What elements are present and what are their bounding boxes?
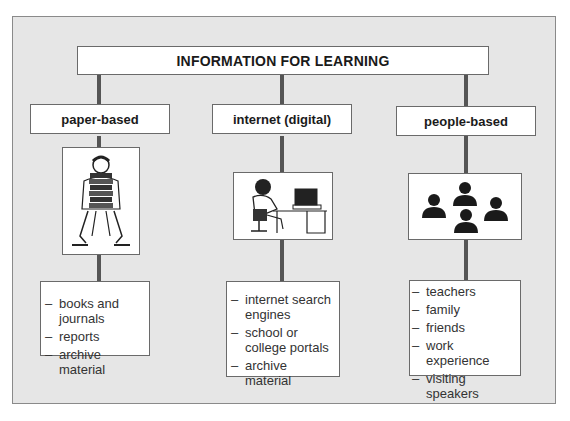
internet-list: internet search engines school or colleg… [226,281,340,377]
connector-internet-top [280,75,284,106]
connector-internet-bottom [280,240,284,282]
internet-picture [233,172,333,240]
category-internet: internet (digital) [212,104,352,134]
connector-internet-mid [280,136,284,172]
list-item: internet search engines [229,292,335,322]
category-people-based: people-based [396,106,536,136]
connector-people-top [464,75,468,106]
connector-people-mid [464,136,468,173]
diagram-title: INFORMATION FOR LEARNING [77,46,489,75]
list-item: archive material [43,347,145,377]
connector-paper-bottom [97,255,101,281]
list-item: family [410,302,518,317]
category-paper-based: paper-based [30,104,170,134]
connector-paper-top [97,75,101,106]
list-item: school or college portals [229,325,335,355]
list-item: visiting speakers [410,371,518,401]
paper-picture [62,147,140,255]
person-at-computer-icon [237,175,329,237]
group-of-people-icon [412,176,518,238]
list-item: friends [410,320,518,335]
people-picture [408,173,522,240]
list-item: books and journals [43,296,145,326]
people-based-list: teachers family friends work experience … [409,280,521,376]
list-item: archive material [229,358,335,388]
paper-based-list: books and journals reports archive mater… [40,281,150,356]
person-carrying-books-icon [66,151,136,251]
list-item: work experience [410,338,518,368]
list-item: teachers [410,284,518,299]
connector-people-bottom [464,240,468,281]
list-item: reports [43,329,145,344]
